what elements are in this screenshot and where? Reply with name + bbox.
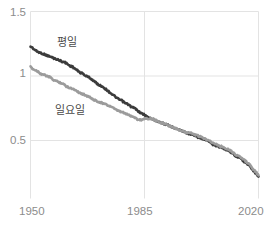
series-label-sunday: 일요일 (55, 101, 85, 117)
x-axis-tick-1950: 1950 (19, 205, 45, 217)
y-axis-tick-1-5: 1.5 (0, 6, 26, 18)
chart-container: 1.5 1 0.5 1950 1985 2020 평일 일요일 (0, 0, 269, 225)
x-axis-tick-1985: 1985 (127, 205, 153, 217)
series-label-weekday: 평일 (57, 33, 77, 49)
chart-plot-area (0, 0, 269, 225)
y-axis-tick-0-5: 0.5 (0, 134, 26, 146)
x-axis-tick-2020: 2020 (238, 205, 264, 217)
y-axis-tick-1: 1 (0, 67, 26, 79)
